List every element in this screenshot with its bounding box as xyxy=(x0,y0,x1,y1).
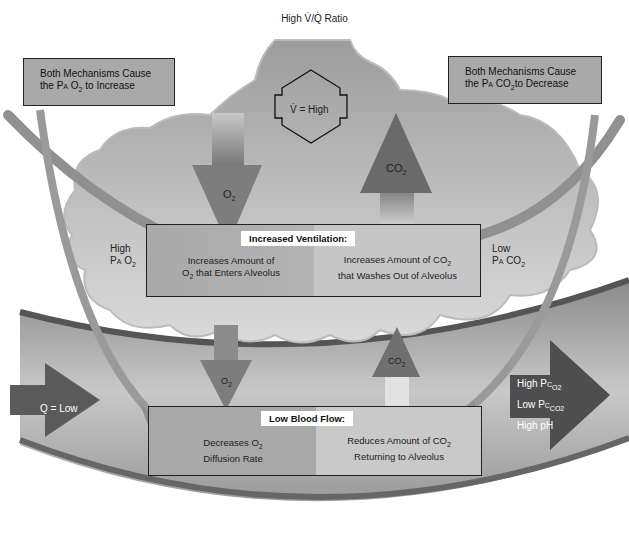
o2-arrow-label: O2 xyxy=(223,188,235,205)
co2-capillary-label: CO2 xyxy=(388,355,405,371)
ventilation-left-text: Increases Amount of O2 that Enters Alveo… xyxy=(147,225,315,296)
note-left: Both Mechanisms Cause the PA O2 to Incre… xyxy=(23,58,175,106)
outflow-labels: High PCO2 Low PCCO2 High pH xyxy=(517,377,564,432)
blood-flow-right-text: Reduces Amount of CO2 Returning to Alveo… xyxy=(317,407,481,475)
co2-arrow-label: CO2 xyxy=(386,162,406,179)
ventilation-right-text: Increases Amount of CO2 that Washes Out … xyxy=(315,225,480,296)
note-right-line1: Both Mechanisms Cause xyxy=(465,66,601,78)
blood-flow-left-text: Decreases O2 Diffusion Rate xyxy=(149,407,317,475)
blood-flow-box: Low Blood Flow: Decreases O2 Diffusion R… xyxy=(148,406,482,476)
o2-capillary-label: O2 xyxy=(221,375,232,391)
low-paco2-label: Low PA CO2 xyxy=(492,243,525,271)
note-left-line2: the PA O2 to Increase xyxy=(40,80,174,96)
ventilation-box: Increased Ventilation: Increases Amount … xyxy=(146,224,481,297)
q-low-label: Q = Low xyxy=(40,402,78,415)
note-right-line2: the PA CO2to Decrease xyxy=(465,78,601,94)
high-pao2-label: High PA O2 xyxy=(110,243,136,271)
ventilation-label: V̇ = High xyxy=(290,104,329,116)
note-left-line1: Both Mechanisms Cause xyxy=(40,68,174,80)
diagram-title: High V̇/Q̇ Ratio xyxy=(0,13,629,24)
note-right: Both Mechanisms Cause the PA CO2to Decre… xyxy=(448,56,602,104)
